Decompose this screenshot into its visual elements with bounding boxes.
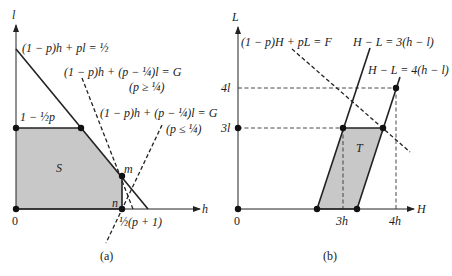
y-tick-4l: 4l — [221, 81, 231, 95]
dot-3l — [235, 125, 241, 131]
line-3-label: H − L = 3(h − l) — [352, 35, 434, 49]
line-dashed-2-label: (1 − p)h + (p − ¼)l = G — [100, 106, 218, 120]
dot-origin — [235, 206, 241, 212]
dot — [340, 125, 346, 131]
dot — [380, 125, 386, 131]
origin-label: 0 — [234, 214, 240, 228]
region-s-label: S — [56, 161, 62, 175]
axis-L-label: L — [231, 10, 239, 24]
dot-4l — [393, 85, 399, 91]
figure: l h 0 (1 − p)h + pl = ½ (1 − p)h + (p − … — [0, 0, 452, 276]
axis-H-label: H — [416, 202, 427, 216]
panel-a: l h 0 (1 − p)h + pl = ½ (1 − p)h + (p − … — [12, 8, 218, 263]
line-dashed-1-label: (1 − p)h + (p − ¼)l = G — [64, 65, 182, 79]
y-value-label: 1 − ½p — [20, 110, 55, 124]
point-n-label: n — [112, 196, 118, 210]
origin-label: 0 — [12, 214, 18, 228]
dot — [314, 206, 320, 212]
y-tick-3l: 3l — [220, 121, 231, 135]
caption-a: (a) — [100, 249, 113, 263]
dot — [13, 125, 19, 131]
line-dashed-f-label: (1 − p)H + pL = F — [241, 35, 332, 49]
x-tick-4h: 4h — [389, 214, 401, 228]
axis-h-label: h — [202, 202, 208, 216]
caption-b: (b) — [323, 249, 337, 263]
line-solid-label: (1 − p)h + pl = ½ — [22, 41, 109, 55]
dot-n — [119, 206, 125, 212]
cond-2-label: (p ≤ ¼) — [166, 122, 202, 136]
point-m-label: m — [124, 162, 133, 176]
axis-l-label: l — [12, 8, 16, 22]
dot-origin — [13, 206, 19, 212]
region-t — [317, 128, 383, 209]
x-value-label: ½(p + 1) — [119, 215, 162, 229]
dot — [354, 206, 360, 212]
x-tick-3h: 3h — [335, 214, 348, 228]
panel-b: L H 0 (1 − p)H + pL = F H − L = 3(h − l)… — [220, 10, 449, 263]
cond-1-label: (p ≥ ¼) — [129, 80, 165, 94]
line-4-label: H − L = 4(h − l) — [367, 63, 449, 77]
dot — [78, 125, 84, 131]
